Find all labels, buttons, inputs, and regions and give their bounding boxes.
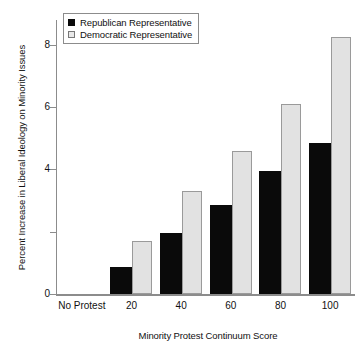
x-tick-label: 20 xyxy=(126,300,137,312)
bar-republican xyxy=(110,267,132,294)
x-tick-label: 80 xyxy=(275,300,286,312)
bar-democratic xyxy=(182,191,202,294)
bar-group xyxy=(57,20,107,294)
legend-swatch-republican-icon xyxy=(68,19,75,26)
y-tick-label-4: 4 xyxy=(44,164,50,174)
bar-republican xyxy=(210,205,232,294)
y-tick-8 xyxy=(50,45,56,46)
x-tick-label: 100 xyxy=(322,300,339,312)
bar-group xyxy=(256,20,306,294)
bar-democratic xyxy=(232,151,252,294)
x-tick-label: No Protest xyxy=(58,300,105,312)
legend-item-republican: Republican Representative xyxy=(68,17,192,28)
legend-swatch-democratic-icon xyxy=(68,31,75,38)
bar-groups xyxy=(57,20,355,294)
bar-chart-figure: Percent Increase in Liberal Ideology on … xyxy=(0,0,361,350)
bar-democratic xyxy=(331,37,351,294)
y-tick-0 xyxy=(50,294,56,295)
legend-label-republican: Republican Representative xyxy=(80,17,192,28)
bar-democratic xyxy=(281,104,301,294)
y-tick-label-8: 8 xyxy=(44,40,50,50)
y-tick-label-0: 0 xyxy=(44,289,50,299)
x-axis-line xyxy=(56,294,355,296)
y-tick-label-6: 6 xyxy=(44,102,50,112)
x-axis-title: Minority Protest Continuum Score xyxy=(55,330,361,341)
bar-republican xyxy=(309,143,331,294)
y-tick-2 xyxy=(50,232,56,233)
legend-label-democratic: Democratic Representative xyxy=(80,29,192,40)
x-tick-label: 40 xyxy=(176,300,187,312)
y-tick-6 xyxy=(50,107,56,108)
bar-group xyxy=(206,20,256,294)
bar-group xyxy=(107,20,157,294)
bar-group xyxy=(156,20,206,294)
bar-republican xyxy=(160,233,182,294)
plot-area: 0468 No Protest20406080100 xyxy=(56,20,355,295)
x-tick-label: 60 xyxy=(225,300,236,312)
y-axis-title: Percent Increase in Liberal Ideology on … xyxy=(16,23,27,293)
bar-democratic xyxy=(132,241,152,294)
bar-republican xyxy=(259,171,281,294)
y-tick-4 xyxy=(50,169,56,170)
bar-group xyxy=(305,20,355,294)
x-axis-tick-labels: No Protest20406080100 xyxy=(57,300,355,316)
chart-legend: Republican Representative Democratic Rep… xyxy=(63,13,199,44)
legend-item-democratic: Democratic Representative xyxy=(68,29,192,40)
y-axis-tick-labels: 0468 xyxy=(34,20,50,295)
